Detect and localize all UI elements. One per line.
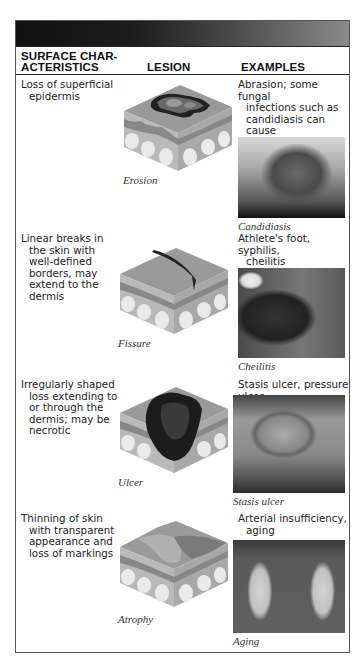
row-atrophy-characteristics: Thinning of skinwith transparentappearan… (21, 513, 114, 559)
candidiasis-caption: Candidiasis (238, 220, 291, 232)
header-examples: EXAMPLES (241, 62, 305, 73)
lesion-table: SURFACE CHAR-ACTERISTICS LESION EXAMPLES… (15, 20, 350, 653)
ulcer-lesion-illustration (118, 385, 230, 477)
table-header: SURFACE CHAR-ACTERISTICS LESION EXAMPLES (16, 46, 349, 75)
fissure-caption: Fissure (118, 337, 151, 349)
atrophy-caption: Atrophy (118, 613, 153, 625)
cheilitis-photo (238, 268, 345, 358)
row-erosion-characteristics: Loss of superficialepidermis (21, 79, 113, 102)
fissure-lesion-illustration (118, 246, 230, 336)
row-fissure-examples: Athlete's foot, syphilis,cheilitis (238, 233, 349, 268)
row-atrophy-examples: Arterial insufficiency,aging (238, 513, 347, 536)
aging-hands-photo (233, 540, 345, 633)
stasis-ulcer-photo (233, 395, 345, 493)
aging-caption: Aging (233, 635, 259, 647)
erosion-lesion-illustration (122, 83, 234, 173)
header-lesion: LESION (147, 62, 190, 73)
cheilitis-caption: Cheilitis (238, 360, 275, 372)
title-band (16, 21, 349, 46)
row-ulcer-characteristics: Irregularly shapedloss extending toor th… (21, 379, 117, 437)
header-surface-characteristics: SURFACE CHAR-ACTERISTICS (21, 51, 118, 73)
stasis-ulcer-caption: Stasis ulcer (233, 495, 284, 507)
candidiasis-photo (238, 137, 345, 218)
atrophy-lesion-illustration (118, 517, 230, 609)
erosion-caption: Erosion (123, 174, 157, 186)
ulcer-caption: Ulcer (118, 476, 143, 488)
row-fissure-characteristics: Linear breaks inthe skin withwell-define… (21, 233, 103, 303)
